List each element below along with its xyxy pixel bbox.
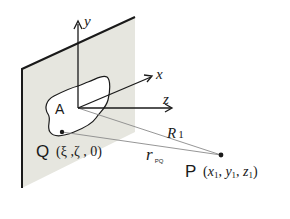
point-p-label: P xyxy=(185,162,196,181)
aperture-label: A xyxy=(55,101,65,117)
r1-label: R1 xyxy=(166,125,184,141)
diffraction-geometry-diagram: y x z A Q (ξ ,ζ , 0) R1 rPQ P (x1, y1, z… xyxy=(0,0,290,219)
point-p-coords: (x1, y1, z1) xyxy=(203,164,258,180)
y-axis-label: y xyxy=(82,13,91,29)
point-q-label: Q xyxy=(36,142,49,161)
x-axis-label: x xyxy=(155,66,163,82)
point-q-coords: (ξ ,ζ , 0) xyxy=(56,144,102,160)
point-q-dot xyxy=(60,130,64,134)
z-axis-label: z xyxy=(162,91,169,107)
point-p-dot xyxy=(219,153,224,158)
rpq-label: rPQ xyxy=(146,145,164,164)
